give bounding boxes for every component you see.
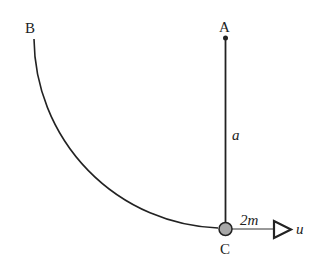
particle <box>219 223 232 236</box>
label-b-point: B <box>25 20 35 36</box>
label-mass: 2m <box>240 212 259 228</box>
arc-bc <box>34 39 218 228</box>
label-c-point: C <box>220 241 230 257</box>
velocity-arrow-icon <box>274 221 291 238</box>
label-length: a <box>232 127 240 143</box>
diagram-canvas: A B C a 2m u <box>0 0 323 270</box>
label-velocity: u <box>296 221 304 237</box>
label-a-point: A <box>219 19 230 35</box>
point-a-dot <box>223 36 228 41</box>
